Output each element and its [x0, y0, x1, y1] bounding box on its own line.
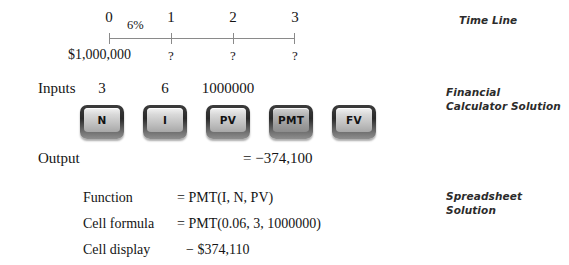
timeline-period-3: 3: [283, 9, 307, 26]
calculator-key-pmt-label: PMT: [278, 115, 304, 126]
timeline-unknown-3: ?: [288, 48, 302, 64]
inputs-label: Inputs: [38, 80, 76, 97]
calculator-key-i-face: I: [147, 108, 183, 132]
spreadsheet-row-value-cell-display: − $374,110: [186, 242, 249, 258]
spreadsheet-row-label-function: Function: [83, 190, 133, 206]
calculator-key-i[interactable]: I: [143, 105, 187, 139]
caption-spreadsheet-solution: Spreadsheet Solution: [446, 190, 522, 217]
timeline-interest-rate: 6%: [127, 18, 144, 33]
calculator-key-fv[interactable]: FV: [332, 105, 376, 139]
input-value-pv: 1000000: [202, 80, 255, 97]
calculator-key-pv-label: PV: [220, 115, 236, 126]
timeline-period-1: 1: [159, 9, 183, 26]
input-value-i: 6: [161, 80, 169, 97]
calculator-key-n-label: N: [97, 115, 106, 126]
timeline-tick-0: [109, 33, 110, 44]
output-value: = −374,100: [243, 150, 312, 167]
calculator-key-n[interactable]: N: [80, 105, 124, 139]
timeline-axis: [109, 38, 295, 39]
timeline-present-value: $1,000,000: [68, 47, 131, 63]
spreadsheet-row-label-cell-display: Cell display: [83, 242, 150, 258]
calculator-key-fv-label: FV: [346, 115, 362, 126]
timeline-period-0: 0: [97, 9, 121, 26]
input-value-n: 3: [98, 80, 106, 97]
output-label: Output: [38, 150, 80, 167]
spreadsheet-row-value-cell-formula: = PMT(0.06, 3, 1000000): [177, 216, 321, 232]
timeline-tick-2: [233, 33, 234, 44]
spreadsheet-row-label-cell-formula: Cell formula: [83, 216, 154, 232]
calculator-key-fv-face: FV: [336, 108, 372, 132]
timeline-unknown-1: ?: [164, 48, 178, 64]
spreadsheet-row-value-function: = PMT(I, N, PV): [177, 190, 273, 206]
caption-time-line: Time Line: [459, 14, 517, 28]
time-line-figure: Time Line Financial Calculator Solution …: [0, 0, 569, 265]
calculator-key-pv-face: PV: [210, 108, 246, 132]
timeline-unknown-2: ?: [226, 48, 240, 64]
calculator-key-pmt-face: PMT: [273, 108, 309, 132]
calculator-key-pv[interactable]: PV: [206, 105, 250, 139]
calculator-key-n-face: N: [84, 108, 120, 132]
timeline-tick-1: [171, 33, 172, 44]
calculator-key-pmt[interactable]: PMT: [269, 105, 313, 139]
calculator-key-i-label: I: [163, 115, 167, 126]
timeline-tick-3: [294, 33, 295, 44]
caption-financial-calculator-solution: Financial Calculator Solution: [446, 86, 561, 113]
timeline-period-2: 2: [221, 9, 245, 26]
